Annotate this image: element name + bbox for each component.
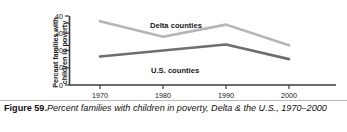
series-line-us-counties <box>100 44 289 59</box>
y-tick-label-40: 40 <box>55 12 63 21</box>
x-tick-labels: 1970 1980 1990 2000 <box>92 91 297 100</box>
figure-caption: Figure 59.Percent families with children… <box>4 102 343 114</box>
y-tick-label-0: 0 <box>59 81 63 90</box>
x-tick-label-1980: 1980 <box>155 91 171 100</box>
y-tick-label-30: 30 <box>55 29 63 38</box>
series-annotation-us-counties: U.S. counties <box>151 66 199 75</box>
caption-divider <box>0 100 347 101</box>
x-tick-label-1970: 1970 <box>92 91 108 100</box>
figure-number: Figure 59. <box>4 103 47 113</box>
figure-container: Percent families with children in povert… <box>0 0 347 132</box>
y-tick-labels: 0 10 20 30 40 <box>55 12 63 90</box>
series-annotation-delta-counties: Delta counties <box>150 21 202 30</box>
figure-caption-text: Percent families with children in povert… <box>47 103 327 113</box>
x-tick-label-1990: 1990 <box>218 91 234 100</box>
y-tick-label-20: 20 <box>55 46 63 55</box>
line-chart-plot: 0 10 20 30 40 1970 1980 1990 2000 <box>0 0 347 100</box>
x-tick-label-2000: 2000 <box>281 91 297 100</box>
chart-area: Percent families with children in povert… <box>0 0 347 100</box>
y-tick-label-10: 10 <box>55 63 63 72</box>
y-tick-marks <box>65 16 69 85</box>
